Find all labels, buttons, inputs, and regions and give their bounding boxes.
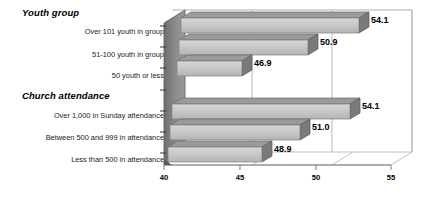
value-label-church-500-999: 51.0 xyxy=(312,122,330,132)
xtick-label-40: 40 xyxy=(160,173,168,182)
bar-church-500-999 xyxy=(170,119,310,140)
value-label-youth-over-101: 54.1 xyxy=(371,15,389,25)
xtick-label-45: 45 xyxy=(236,173,244,182)
value-label-youth-51-100: 50.9 xyxy=(320,37,338,47)
value-label-church-less-500: 48.9 xyxy=(274,144,292,154)
bar-youth-51-100 xyxy=(179,34,318,55)
bar-church-less-500 xyxy=(168,141,272,162)
bar-youth-50-or-less xyxy=(177,55,252,76)
bar-chart: Youth group Over 101 youth in group 51-1… xyxy=(0,0,422,200)
bar-church-over-1000 xyxy=(172,98,360,119)
value-label-youth-50-or-less: 46.9 xyxy=(254,58,272,68)
plot-area xyxy=(0,0,422,200)
xtick-label-50: 50 xyxy=(312,173,320,182)
value-label-church-over-1000: 54.1 xyxy=(362,101,380,111)
xtick-label-55: 55 xyxy=(387,173,395,182)
bar-youth-over-101 xyxy=(181,12,369,33)
